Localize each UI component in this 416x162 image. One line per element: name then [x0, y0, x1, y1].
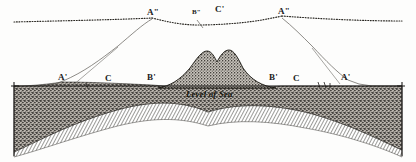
label-b-prime-right: B' — [269, 73, 278, 82]
label-b-double-prime-center: B" — [192, 9, 201, 16]
sea-level-caption: Level of Sea — [186, 89, 233, 99]
former-surface-datum-line — [14, 18, 152, 22]
central-twin-peaks — [158, 50, 276, 88]
geological-cross-section-figure: A' C B' A" B" C' A" B' C A' Level of Sea — [0, 0, 416, 162]
label-b-prime-left: B' — [147, 73, 156, 82]
former-surface-datum-line-right — [282, 16, 402, 21]
former-surface-sag-curve — [152, 16, 282, 25]
leader-line-b-dprime-center — [197, 20, 203, 28]
label-c-left: C — [105, 74, 112, 83]
label-a-prime-left: A' — [58, 73, 67, 82]
label-a-double-prime-right: A" — [278, 7, 290, 16]
label-c-prime-center: C' — [215, 5, 224, 14]
label-a-prime-right: A' — [341, 73, 350, 82]
label-a-double-prime-left: A" — [147, 8, 159, 17]
leader-line-a-prime-right — [312, 48, 340, 84]
present-land-profile-left — [14, 19, 152, 86]
label-c-right: C — [293, 74, 300, 83]
